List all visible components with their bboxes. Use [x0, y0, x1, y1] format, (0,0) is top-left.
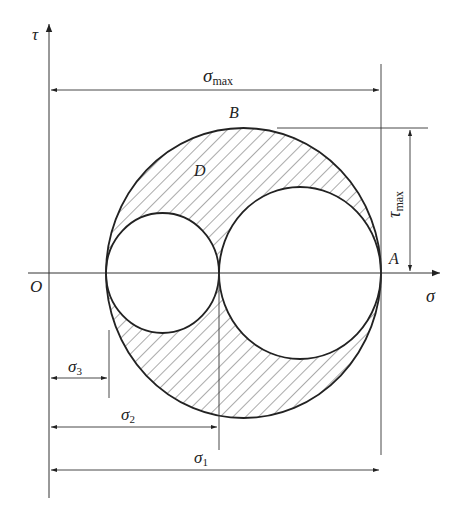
- point-d-label: D: [193, 162, 206, 179]
- origin-label: O: [30, 277, 42, 296]
- sigma-axis-label: σ: [426, 286, 436, 306]
- tau-axis-label: τ: [32, 25, 39, 44]
- point-a-label: A: [388, 250, 399, 267]
- point-b-label: B: [229, 104, 239, 121]
- mohr-circle-diagram: τ σ O B D A σmax τmax σ3 σ2 σ1: [0, 0, 458, 510]
